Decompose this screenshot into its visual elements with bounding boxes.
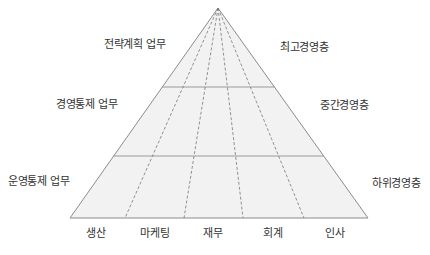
label-top-management: 최고경영층 xyxy=(280,38,329,54)
label-middle-management: 중간경영층 xyxy=(320,96,369,112)
function-production: 생산 xyxy=(86,224,106,240)
label-management-control: 경영통제 업무 xyxy=(56,95,117,111)
pyramid-diagram xyxy=(0,0,430,255)
function-accounting: 회계 xyxy=(263,224,283,240)
function-finance: 재무 xyxy=(203,224,223,240)
label-lower-management: 하위경영층 xyxy=(372,174,421,190)
function-marketing: 마케팅 xyxy=(140,224,170,240)
function-hr: 인사 xyxy=(325,224,345,240)
label-strategic-planning: 전략계획 업무 xyxy=(104,35,165,51)
label-operational-control: 운영통제 업무 xyxy=(8,172,69,188)
